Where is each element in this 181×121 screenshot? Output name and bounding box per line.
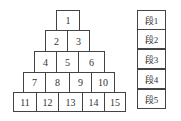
pyramid-cell: 8 [45, 72, 70, 93]
segment-cell: 段1 [137, 10, 166, 30]
pyramid-cell: 5 [56, 51, 79, 73]
pyramid-cell: 14 [82, 92, 105, 112]
pyramid-cell: 10 [91, 72, 115, 93]
pyramid-cell: 11 [13, 92, 37, 112]
pyramid-cell: 13 [58, 92, 83, 112]
pyramid-cell: 15 [104, 92, 126, 112]
segment-cell: 段3 [137, 49, 166, 69]
pyramid-cell: 2 [45, 30, 68, 52]
pyramid-cell: 1 [56, 10, 80, 31]
pyramid-cell: 6 [78, 51, 105, 73]
pyramid-cell: 12 [36, 92, 59, 112]
segment-cell: 段5 [137, 89, 166, 109]
pyramid-cell: 7 [23, 72, 46, 93]
pyramid-cell: 3 [67, 30, 90, 52]
pyramid-cell: 4 [34, 51, 57, 73]
pyramid-cell: 9 [69, 72, 92, 93]
segment-cell: 段4 [137, 69, 166, 89]
segment-cell: 段2 [137, 29, 166, 49]
